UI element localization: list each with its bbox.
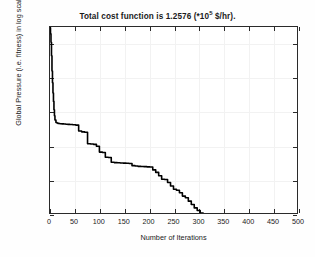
x-tick-label: 250 <box>168 217 180 226</box>
y-tick-mark <box>50 215 54 216</box>
x-tick-label: 300 <box>192 217 204 226</box>
x-axis-label: Number of Iterations <box>49 233 298 242</box>
y-tick-mark <box>293 215 297 216</box>
chart-title-prefix: Total cost function is 1.2576 (*10 <box>79 12 209 21</box>
global-pressure-curve <box>50 28 297 213</box>
x-tick-label: 350 <box>217 217 229 226</box>
data-series-line <box>50 27 297 213</box>
x-tick-label: 450 <box>267 217 279 226</box>
x-tick-label: 50 <box>70 217 78 226</box>
x-tick-label: 0 <box>47 217 51 226</box>
chart-title-suffix: $/hr). <box>213 12 236 21</box>
chart-title: Total cost function is 1.2576 (*105 $/hr… <box>0 10 315 21</box>
x-tick-mark <box>299 27 300 31</box>
x-tick-label: 100 <box>93 217 105 226</box>
x-tick-mark <box>299 209 300 213</box>
x-tick-label: 400 <box>242 217 254 226</box>
x-tick-label: 150 <box>118 217 130 226</box>
x-tick-label: 500 <box>292 217 304 226</box>
x-tick-label: 200 <box>143 217 155 226</box>
plot-area <box>49 26 298 214</box>
figure-canvas: Total cost function is 1.2576 (*105 $/hr… <box>0 0 315 257</box>
y-axis-label: Global Pressure (i.e. fitness) in log sc… <box>14 0 23 141</box>
